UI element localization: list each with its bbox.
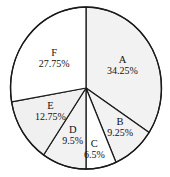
slice-label-name-e: E <box>47 100 53 111</box>
slice-label-value-b: 9.25% <box>107 127 133 138</box>
pie-slices-group <box>10 7 161 169</box>
slice-label-name-f: F <box>51 47 57 58</box>
pie-slice-f <box>10 7 86 102</box>
slice-label-value-c: 6.5% <box>84 149 105 160</box>
slice-label-name-b: B <box>117 116 124 127</box>
slice-label-name-c: C <box>91 138 98 149</box>
slice-label-name-d: D <box>69 124 77 135</box>
slice-label-value-f: 27.75% <box>39 58 70 69</box>
pie-chart: A34.25%B9.25%C6.5%D9.5%E12.75%F27.75% <box>0 0 170 177</box>
slice-label-name-a: A <box>119 54 127 65</box>
slice-label-value-a: 34.25% <box>107 65 138 76</box>
pie-chart-svg: A34.25%B9.25%C6.5%D9.5%E12.75%F27.75% <box>0 0 170 177</box>
slice-label-value-d: 9.5% <box>62 135 83 146</box>
slice-label-value-e: 12.75% <box>35 111 66 122</box>
